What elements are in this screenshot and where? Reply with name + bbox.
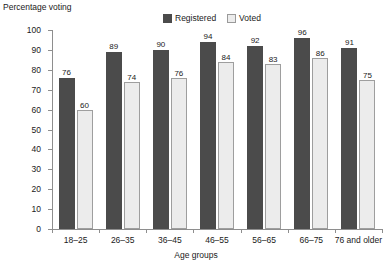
bar-value-label: 91 — [345, 38, 354, 47]
x-axis-category-label: 76 and older — [335, 235, 382, 245]
bar-value-label: 92 — [251, 36, 260, 45]
bar-value-label: 86 — [316, 49, 325, 58]
chart-legend: Registered Voted — [163, 13, 261, 23]
bar-group: 948446–55 — [193, 30, 240, 229]
y-axis-tick-label: 70 — [32, 85, 41, 95]
x-axis-line — [52, 229, 382, 230]
y-axis-tick-label: 80 — [32, 65, 41, 75]
legend-item-voted: Voted — [227, 13, 261, 23]
bar-chart: Percentage voting Registered Voted 01020… — [0, 0, 392, 268]
bar-value-label: 84 — [222, 53, 231, 62]
bar-value-label: 75 — [363, 71, 372, 80]
bar-voted[interactable]: 84 — [218, 62, 234, 229]
y-axis-tick-label: 30 — [32, 164, 41, 174]
bar-voted[interactable]: 60 — [77, 110, 93, 229]
bar-group: 968666–75 — [288, 30, 335, 229]
legend-label-registered: Registered — [175, 13, 216, 23]
plot-area: 0102030405060708090100 766018–25897426–3… — [52, 30, 382, 229]
bar-group: 917576 and older — [335, 30, 382, 229]
x-axis-tick — [241, 229, 242, 233]
x-axis-category-label: 56–65 — [252, 235, 276, 245]
legend-label-voted: Voted — [239, 13, 261, 23]
bar-group: 766018–25 — [52, 30, 99, 229]
bar-value-label: 94 — [204, 32, 213, 41]
bar-value-label: 74 — [127, 73, 136, 82]
x-axis-tick — [52, 229, 53, 233]
bar-group: 928356–65 — [241, 30, 288, 229]
y-axis-tick-label: 40 — [32, 144, 41, 154]
y-axis-tick-label: 60 — [32, 105, 41, 115]
y-axis-tick-label: 0 — [36, 224, 41, 234]
x-axis-category-label: 18–25 — [64, 235, 88, 245]
bar-value-label: 76 — [62, 68, 71, 77]
bar-voted[interactable]: 86 — [312, 58, 328, 229]
legend-item-registered: Registered — [163, 13, 216, 23]
x-axis-category-label: 46–55 — [205, 235, 229, 245]
bar-registered[interactable]: 90 — [153, 50, 169, 229]
y-axis-tick-label: 90 — [32, 45, 41, 55]
bar-voted[interactable]: 74 — [124, 82, 140, 229]
y-axis-tick-label: 50 — [32, 125, 41, 135]
bar-value-label: 89 — [109, 42, 118, 51]
x-axis-category-label: 26–35 — [111, 235, 135, 245]
x-axis-tick — [382, 229, 383, 233]
bar-registered[interactable]: 91 — [341, 48, 357, 229]
bar-registered[interactable]: 92 — [247, 46, 263, 229]
y-axis-tick-label: 10 — [32, 204, 41, 214]
x-axis-category-label: 66–75 — [299, 235, 323, 245]
bar-registered[interactable]: 76 — [59, 78, 75, 229]
bar-value-label: 60 — [80, 101, 89, 110]
x-axis-tick — [335, 229, 336, 233]
x-axis-tick — [288, 229, 289, 233]
bar-voted[interactable]: 76 — [171, 78, 187, 229]
x-axis-tick — [99, 229, 100, 233]
bar-registered[interactable]: 89 — [106, 52, 122, 229]
legend-swatch-voted-icon — [227, 14, 236, 23]
legend-swatch-registered-icon — [163, 14, 172, 23]
y-axis-tick-label: 20 — [32, 184, 41, 194]
bar-group: 907636–45 — [146, 30, 193, 229]
bar-value-label: 76 — [174, 69, 183, 78]
x-axis-category-label: 36–45 — [158, 235, 182, 245]
x-axis-tick — [146, 229, 147, 233]
bar-registered[interactable]: 94 — [200, 42, 216, 229]
y-axis-title: Percentage voting — [3, 2, 72, 12]
x-axis-title: Age groups — [0, 250, 392, 260]
bar-value-label: 90 — [156, 40, 165, 49]
bar-value-label: 83 — [269, 55, 278, 64]
x-axis-tick — [193, 229, 194, 233]
bar-group: 897426–35 — [99, 30, 146, 229]
bar-voted[interactable]: 83 — [265, 64, 281, 229]
y-axis-tick-label: 100 — [27, 25, 41, 35]
bar-value-label: 96 — [298, 28, 307, 37]
bar-registered[interactable]: 96 — [294, 38, 310, 229]
bar-voted[interactable]: 75 — [359, 80, 375, 229]
